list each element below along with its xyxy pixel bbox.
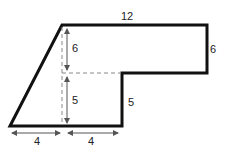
inner-lower-height-label: 5 [72, 94, 78, 106]
notch-height-label: 5 [128, 96, 134, 108]
shape-outline [10, 25, 207, 126]
top-length-label: 12 [121, 10, 133, 22]
shape-diagram: 12 6 6 5 5 4 4 [0, 0, 226, 152]
right-height-label: 6 [210, 43, 216, 55]
bottom-right-length-label: 4 [88, 135, 94, 147]
bottom-left-length-label: 4 [34, 135, 40, 147]
inner-upper-height-label: 6 [72, 42, 78, 54]
